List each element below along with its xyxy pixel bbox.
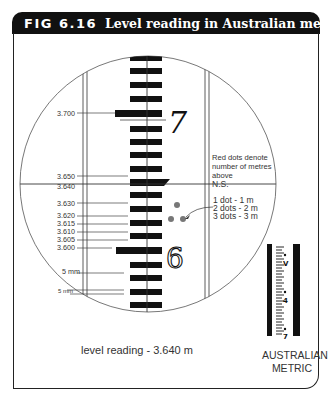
svg-text:3.640: 3.640: [57, 182, 75, 191]
australian-metric-label: AUSTRALIAN METRIC: [262, 349, 322, 375]
australian-metric-label-line2: METRIC: [262, 362, 322, 375]
svg-text:3.650: 3.650: [57, 172, 75, 181]
svg-text:3.700: 3.700: [57, 109, 75, 118]
australian-metric-staff-inset: V 4 7: [267, 244, 300, 341]
svg-text:V: V: [283, 260, 289, 268]
svg-text:4: 4: [283, 297, 288, 305]
svg-text:number of metres: number of metres: [212, 162, 272, 171]
svg-text:5 mm: 5 mm: [62, 267, 80, 276]
svg-text:3.600: 3.600: [57, 243, 75, 252]
svg-text:3.630: 3.630: [57, 199, 75, 208]
svg-text:N.S.: N.S.: [212, 179, 229, 189]
metre-dots: [168, 202, 186, 222]
red-dots-legend: Red dots denote number of metres above N…: [212, 153, 272, 221]
staff-reading-labels: 3.700 3.650 3.640 3.630 3.620 3.615 3.61…: [57, 109, 80, 295]
staff-numeral-7: 7: [168, 105, 188, 140]
svg-text:7: 7: [283, 333, 288, 341]
australian-metric-label-line1: AUSTRALIAN: [262, 349, 322, 362]
svg-text:3 dots - 3 m: 3 dots - 3 m: [213, 211, 258, 221]
level-reading-caption: level reading - 3.640 m: [62, 344, 212, 356]
svg-text:Red dots denote: Red dots denote: [212, 153, 268, 162]
svg-text:5 mm: 5 mm: [58, 288, 73, 294]
staff-bars: [115, 55, 172, 323]
staff-numeral-6: 6: [166, 242, 184, 275]
